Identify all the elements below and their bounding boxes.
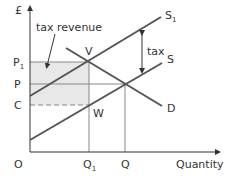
s-label: S [167, 53, 174, 66]
y-axis-label: £ [15, 4, 22, 17]
q-label: Q [121, 158, 130, 171]
point-w-label: W [93, 107, 104, 120]
origin-label: O [14, 158, 23, 171]
p-label: P [14, 78, 21, 91]
tax-revenue-pointer [47, 34, 55, 66]
tax-label: tax [147, 45, 165, 58]
c-label: C [14, 99, 22, 112]
diagram-canvas: £ tax revenue P1 P C V W S1 S D tax O Q1… [0, 0, 232, 180]
tax-revenue-label: tax revenue [36, 21, 102, 34]
point-v-label: V [85, 45, 93, 58]
d-label: D [167, 102, 175, 115]
q1-label: Q1 [83, 158, 96, 173]
s1-label: S1 [165, 9, 176, 24]
p1-label: P1 [13, 56, 24, 71]
tax-incidence-diagram: £ tax revenue P1 P C V W S1 S D tax O Q1… [0, 0, 232, 180]
x-axis-label: Quantity [176, 158, 224, 171]
